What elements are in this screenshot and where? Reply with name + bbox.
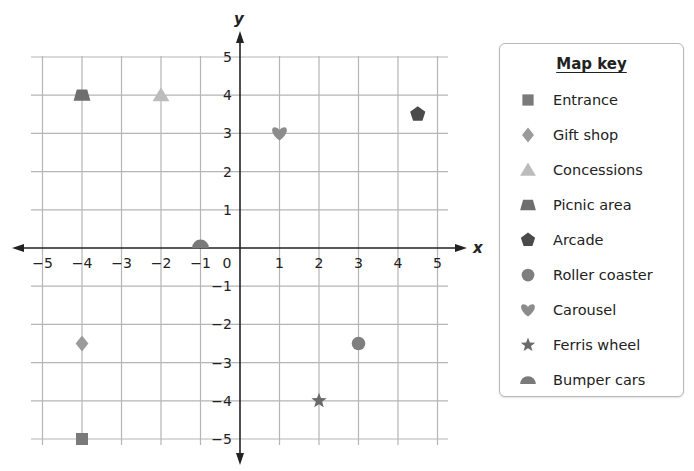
ferris-wheel-icon	[517, 334, 539, 356]
picnic-area-point-icon	[74, 90, 91, 101]
y-tick-label: −3	[211, 355, 232, 371]
legend-label: Arcade	[553, 232, 604, 248]
gift-shop-glyph	[522, 128, 534, 143]
legend-label: Entrance	[553, 92, 618, 108]
bumper-cars-icon	[517, 369, 539, 391]
legend-label: Bumper cars	[553, 372, 645, 388]
x-tick-label: 0	[223, 255, 232, 271]
roller-coaster-icon	[517, 264, 539, 286]
bumper-cars-glyph	[520, 376, 536, 384]
y-tick-label: −1	[211, 278, 232, 294]
picnic-area-glyph	[520, 200, 536, 211]
x-tick-label: 3	[354, 255, 363, 271]
x-tick-label: −3	[111, 255, 132, 271]
y-tick-label: 3	[223, 125, 232, 141]
legend-item: Carousel	[500, 299, 616, 321]
concessions-icon	[517, 159, 539, 181]
legend-item: Picnic area	[500, 194, 632, 216]
legend-item: Roller coaster	[500, 264, 653, 286]
x-tick-label: 1	[275, 255, 284, 271]
ferris-wheel-glyph	[521, 338, 535, 352]
arcade-glyph	[521, 233, 535, 247]
roller-coaster-point-icon	[352, 337, 366, 351]
carousel-glyph	[521, 304, 535, 316]
x-tick-label: −2	[151, 255, 172, 271]
legend-label: Picnic area	[553, 197, 632, 213]
x-tick-label: −1	[190, 255, 211, 271]
legend-label: Roller coaster	[553, 267, 653, 283]
legend-label: Gift shop	[553, 127, 618, 143]
legend-item: Bumper cars	[500, 369, 645, 391]
legend-item: Gift shop	[500, 124, 618, 146]
gift-shop-point-icon	[76, 336, 89, 352]
y-tick-label: 5	[223, 49, 232, 65]
concessions-glyph	[520, 163, 536, 176]
y-tick-label: −4	[211, 393, 232, 409]
y-axis-up-arrow-icon	[236, 31, 244, 43]
bumper-cars-point-icon	[192, 240, 209, 248]
legend-item: Arcade	[500, 229, 604, 251]
y-tick-label: 2	[223, 164, 232, 180]
x-tick-label: −4	[72, 255, 93, 271]
legend-item: Entrance	[500, 89, 618, 111]
axes: x y	[12, 10, 484, 465]
y-tick-label: 4	[223, 87, 232, 103]
legend-label: Carousel	[553, 302, 616, 318]
roller-coaster-glyph	[522, 269, 535, 282]
legend-label: Ferris wheel	[553, 337, 640, 353]
x-axis-label: x	[472, 239, 484, 257]
map-key-legend: Map key EntranceGift shopConcessionsPicn…	[499, 43, 684, 397]
y-tick-label: −5	[211, 431, 232, 447]
legend-label: Concessions	[553, 162, 643, 178]
y-tick-label: 1	[223, 202, 232, 218]
arcade-point-icon	[410, 106, 425, 120]
x-axis-left-arrow-icon	[12, 244, 24, 252]
legend-title: Map key	[500, 55, 683, 73]
x-tick-label: 5	[433, 255, 442, 271]
picnic-area-icon	[517, 194, 539, 216]
x-tick-label: −5	[32, 255, 53, 271]
y-tick-label: −2	[211, 316, 232, 332]
carousel-icon	[517, 299, 539, 321]
x-axis-right-arrow-icon	[455, 244, 467, 252]
legend-item: Concessions	[500, 159, 643, 181]
y-axis-label: y	[234, 10, 245, 28]
entrance-glyph	[522, 94, 533, 105]
entrance-icon	[517, 89, 539, 111]
y-axis-down-arrow-icon	[236, 453, 244, 465]
x-tick-label: 4	[394, 255, 403, 271]
entrance-point-icon	[76, 433, 88, 445]
legend-item: Ferris wheel	[500, 334, 640, 356]
gift-shop-icon	[517, 124, 539, 146]
x-tick-label: 2	[315, 255, 324, 271]
concessions-point-icon	[153, 87, 170, 101]
arcade-icon	[517, 229, 539, 251]
